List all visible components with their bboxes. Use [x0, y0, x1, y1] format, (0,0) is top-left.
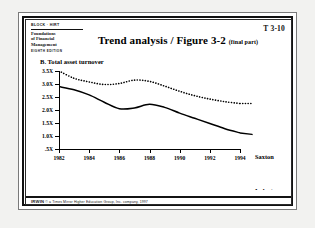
footer-copyright: © a Times Mirror Higher Education Group,… — [45, 200, 148, 204]
y-axis-label: .5X — [45, 146, 53, 152]
chart-area: B. Total asset turnover 3.5X3.0X2.5X2.0X… — [26, 54, 291, 184]
transparency-sheet: BLOCK · HIRT Foundations of Financial Ma… — [25, 19, 292, 205]
legend-label-saxton: Saxton — [255, 153, 274, 160]
x-axis-tick — [210, 149, 211, 153]
data-curves — [59, 71, 240, 149]
legend-connector — [240, 133, 252, 135]
logo-edition: EIGHTH EDITION — [31, 49, 87, 53]
publisher-logo: BLOCK · HIRT Foundations of Financial Ma… — [31, 23, 87, 53]
x-axis-tick — [180, 149, 181, 153]
x-axis-tick — [240, 149, 241, 153]
footer-text: IRWIN © a Times Mirror Higher Education … — [31, 199, 148, 204]
series-line-saxton — [59, 71, 240, 104]
legend-connectors — [240, 71, 276, 149]
x-axis-tick — [89, 149, 90, 153]
page-title: Trend analysis / Figure 3-2 (final part) — [88, 34, 268, 46]
footer: IRWIN © a Times Mirror Higher Education … — [26, 190, 291, 204]
x-axis-label: 1992 — [204, 155, 215, 161]
x-axis-tick — [59, 149, 60, 153]
x-axis-label: 1990 — [174, 155, 185, 161]
header: BLOCK · HIRT Foundations of Financial Ma… — [26, 20, 291, 54]
plot-region: 3.5X3.0X2.5X2.0X1.5X1.0X.5X 198219841986… — [59, 71, 240, 149]
document-code: T 3-10 — [263, 24, 285, 33]
logo-title-line3: Management — [31, 42, 87, 47]
x-axis-label: 1988 — [144, 155, 155, 161]
x-axis-label: 1982 — [53, 155, 64, 161]
chart-panel-label: B. Total asset turnover — [40, 58, 104, 65]
page-title-suffix: (final part) — [229, 39, 258, 45]
y-axis-label: 2.5X — [42, 94, 53, 100]
y-axis-label: 3.5X — [42, 68, 53, 74]
x-axis-label: 1984 — [84, 155, 95, 161]
logo-brand: BLOCK · HIRT — [31, 23, 87, 28]
y-axis-label: 2.0X — [42, 107, 53, 113]
page-frame: BLOCK · HIRT Foundations of Financial Ma… — [18, 12, 297, 210]
y-axis-label: 3.0X — [42, 81, 53, 87]
page-title-main: Trend analysis / Figure 3-2 — [98, 34, 229, 46]
y-axis-label: 1.0X — [42, 133, 53, 139]
y-axis-label: 1.5X — [42, 120, 53, 126]
x-axis-label: 1994 — [234, 155, 245, 161]
x-axis-label: 1986 — [114, 155, 125, 161]
series-line-industry — [59, 87, 240, 133]
logo-divider — [31, 29, 83, 30]
x-axis-tick — [119, 149, 120, 153]
x-axis-tick — [150, 149, 151, 153]
footer-imprint: IRWIN — [31, 199, 44, 204]
